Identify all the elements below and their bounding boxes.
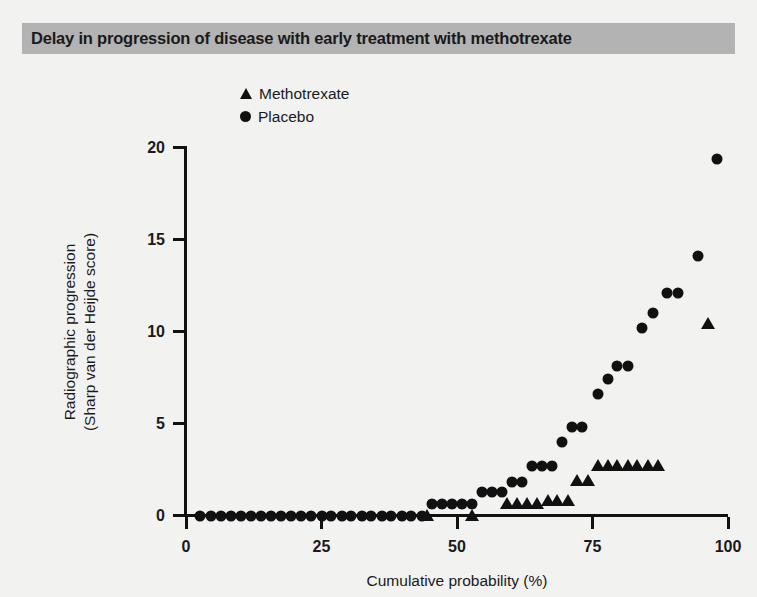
y-tick-label: 20 bbox=[147, 139, 165, 157]
legend-item-placebo: Placebo bbox=[240, 105, 349, 128]
y-tick-mark bbox=[173, 238, 185, 241]
y-tick-label: 15 bbox=[147, 231, 165, 249]
data-point-placebo bbox=[546, 460, 557, 471]
x-tick-label: 75 bbox=[584, 538, 602, 556]
legend: Methotrexate Placebo bbox=[240, 82, 349, 128]
triangle-up-icon bbox=[240, 88, 252, 99]
figure-container: Delay in progression of disease with ear… bbox=[0, 0, 757, 597]
data-point-placebo bbox=[557, 436, 568, 447]
data-point-methotrexate bbox=[420, 509, 434, 521]
data-point-placebo bbox=[602, 374, 613, 385]
data-point-placebo bbox=[517, 477, 528, 488]
data-point-methotrexate bbox=[581, 474, 595, 486]
data-point-placebo bbox=[577, 422, 588, 433]
legend-item-methotrexate: Methotrexate bbox=[240, 82, 349, 105]
x-tick-mark bbox=[727, 517, 730, 529]
data-point-placebo bbox=[672, 287, 683, 298]
plot-area: 0255075100 05101520 Cumulative probabili… bbox=[22, 56, 735, 573]
chart-title-bar: Delay in progression of disease with ear… bbox=[22, 23, 735, 54]
x-tick-label: 50 bbox=[448, 538, 466, 556]
data-point-placebo bbox=[592, 389, 603, 400]
y-tick-mark bbox=[173, 330, 185, 333]
data-point-placebo bbox=[711, 153, 722, 164]
data-point-placebo bbox=[496, 486, 507, 497]
y-tick-label: 10 bbox=[147, 323, 165, 341]
y-axis-label-line-1: Radiographic progression bbox=[60, 233, 80, 431]
data-point-placebo bbox=[692, 251, 703, 262]
data-point-placebo bbox=[622, 361, 633, 372]
x-tick-label: 100 bbox=[715, 538, 742, 556]
x-tick-mark bbox=[591, 517, 594, 529]
y-axis-label-line-2: (Sharp van der Heijde score) bbox=[80, 233, 100, 431]
legend-label-methotrexate: Methotrexate bbox=[259, 85, 349, 103]
data-point-placebo bbox=[637, 322, 648, 333]
data-point-placebo bbox=[647, 308, 658, 319]
x-tick-label: 25 bbox=[313, 538, 331, 556]
data-point-placebo bbox=[195, 510, 206, 521]
y-tick-mark bbox=[173, 422, 185, 425]
y-tick-label: 5 bbox=[156, 415, 165, 433]
page-title: Delay in progression of disease with ear… bbox=[22, 29, 572, 48]
data-point-methotrexate bbox=[701, 317, 715, 329]
data-point-methotrexate bbox=[651, 459, 665, 471]
x-axis-label: Cumulative probability (%) bbox=[367, 572, 548, 590]
y-tick-label: 0 bbox=[156, 507, 165, 525]
legend-label-placebo: Placebo bbox=[258, 108, 314, 126]
y-tick-mark bbox=[173, 146, 185, 149]
y-tick-mark bbox=[173, 514, 185, 517]
x-tick-mark bbox=[185, 517, 188, 529]
circle-icon bbox=[240, 111, 251, 122]
data-point-methotrexate bbox=[465, 509, 479, 521]
y-axis-label: Radiographic progression (Sharp van der … bbox=[60, 233, 100, 431]
x-tick-label: 0 bbox=[182, 538, 191, 556]
x-tick-mark bbox=[456, 517, 459, 529]
data-point-methotrexate bbox=[561, 494, 575, 506]
